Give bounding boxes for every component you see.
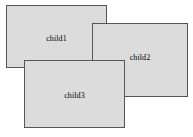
panel-child3-label: child3 xyxy=(64,92,85,100)
panel-child1-label: child1 xyxy=(46,35,67,43)
panel-child2-label: child2 xyxy=(130,54,151,62)
panel-child3[interactable]: child3 xyxy=(24,60,125,128)
panel-canvas: child1 child2 child3 xyxy=(0,0,193,137)
